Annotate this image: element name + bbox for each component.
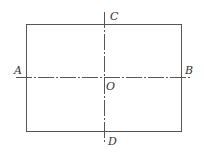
label-o: O <box>106 80 115 93</box>
diagram-svg: A B C D O <box>0 0 204 153</box>
label-a: A <box>13 64 22 77</box>
label-b: B <box>184 64 193 77</box>
diagram-canvas: A B C D O <box>0 0 204 153</box>
label-d: D <box>107 135 117 148</box>
label-c: C <box>110 10 119 23</box>
